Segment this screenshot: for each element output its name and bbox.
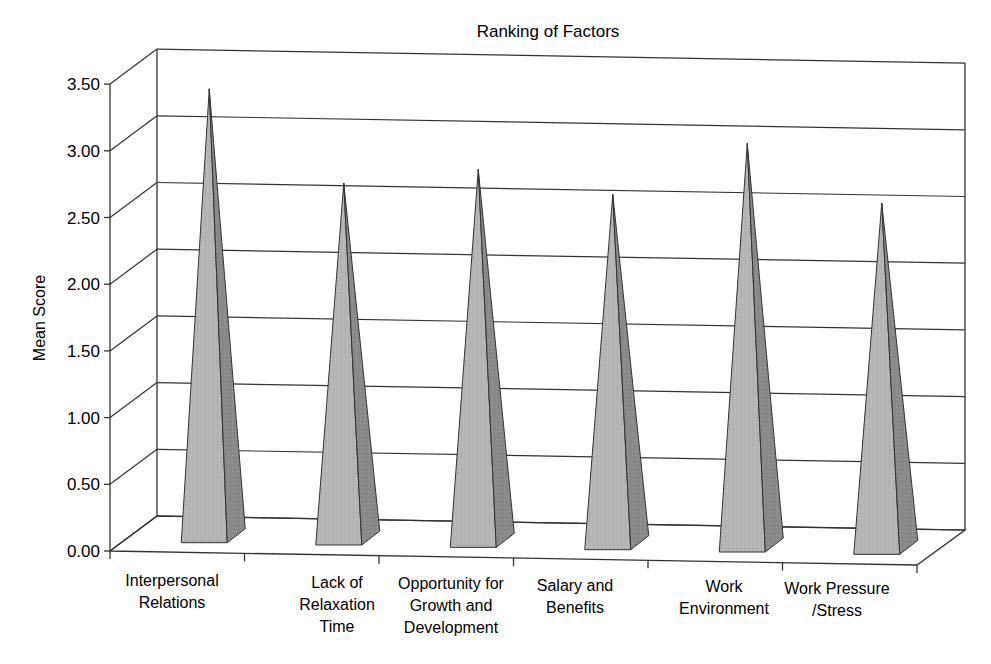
y-tick-label: 3.00 <box>67 142 100 161</box>
gridline <box>157 449 965 463</box>
x-axis-label: Salary andBenefits <box>537 577 614 616</box>
pyramid-bar <box>181 89 245 543</box>
pyramid-bar <box>585 195 649 550</box>
x-axis-labels: InterpersonalRelationsLack ofRelaxationT… <box>125 572 890 636</box>
pyramid-bar <box>719 143 783 552</box>
gridline <box>157 516 965 530</box>
gridline <box>157 316 965 330</box>
y-tick-label: 0.50 <box>67 475 100 494</box>
side-gridline <box>110 249 157 284</box>
pyramid-chart: Ranking of Factors Mean Score 0.000.501.… <box>0 0 991 664</box>
side-gridline <box>110 116 157 151</box>
pyramid-bar <box>854 203 918 554</box>
gridline <box>157 49 965 63</box>
y-tick-label: 1.50 <box>67 342 100 361</box>
side-gridline <box>110 183 157 218</box>
y-axis-label: Mean Score <box>31 275 48 361</box>
y-tick-label: 2.50 <box>67 209 100 228</box>
gridline <box>157 183 965 197</box>
side-gridline <box>110 516 157 551</box>
y-tick-label: 1.00 <box>67 409 100 428</box>
x-axis-label: Work Pressure/Stress <box>784 580 890 619</box>
x-axis-label: WorkEnvironment <box>679 578 769 617</box>
side-gridline <box>110 449 157 484</box>
y-tick-label: 0.00 <box>67 542 100 561</box>
gridline <box>157 249 965 263</box>
chart-title: Ranking of Factors <box>477 22 620 41</box>
side-gridline <box>110 383 157 418</box>
side-gridline <box>110 316 157 351</box>
gridline <box>157 116 965 130</box>
x-axis-label: Opportunity forGrowth andDevelopment <box>398 575 505 636</box>
pyramid-bar <box>450 170 514 548</box>
x-axis-label: InterpersonalRelations <box>125 572 218 611</box>
x-axis-label: Lack ofRelaxationTime <box>299 574 375 635</box>
pyramid-series <box>181 89 918 555</box>
gridline <box>157 383 965 397</box>
y-tick-label: 3.50 <box>67 75 100 94</box>
y-tick-label: 2.00 <box>67 275 100 294</box>
side-gridline <box>110 49 157 84</box>
y-axis-ticks: 0.000.501.001.502.002.503.003.50 <box>67 75 110 561</box>
pyramid-bar <box>316 183 380 545</box>
